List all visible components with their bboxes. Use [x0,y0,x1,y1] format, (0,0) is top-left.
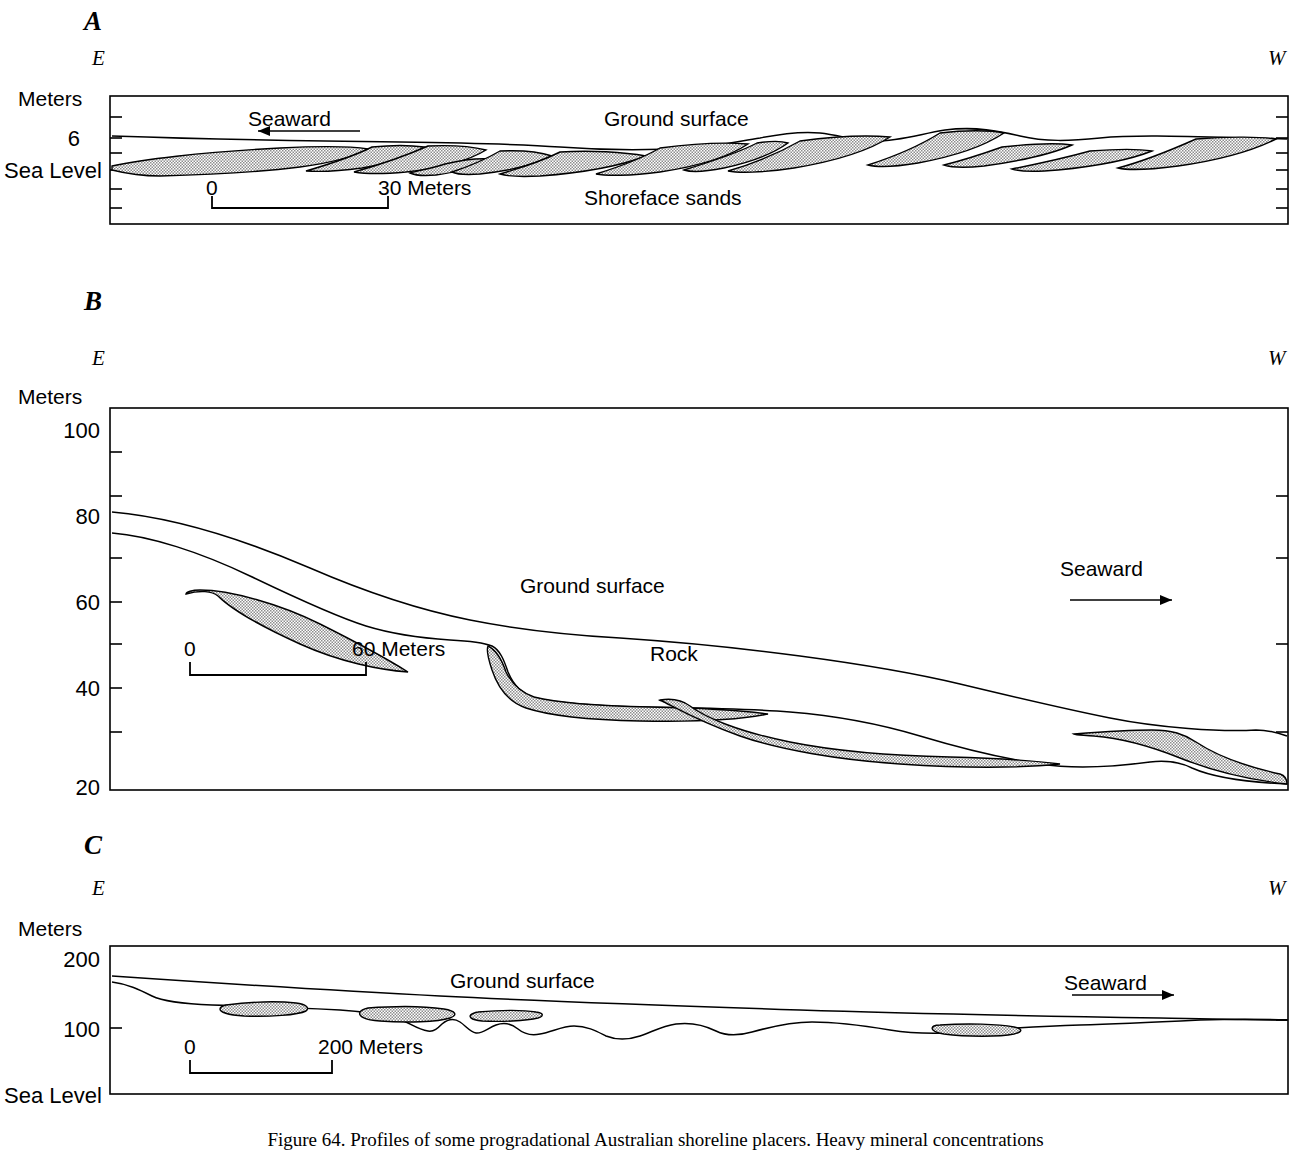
panel-c-scale-start: 0 [184,1036,196,1057]
panel-a-ground-surface-label: Ground surface [604,108,749,129]
panel-a-unit-label: Shoreface sands [584,187,742,208]
panel-a-right-ticks [1276,117,1288,208]
panel-a-scale-bar [212,196,388,208]
panel-b-ore-bodies [186,590,1287,784]
panel-b-unit-label: Rock [650,643,698,664]
panel-a-scale-start: 0 [206,177,218,198]
panel-b-ground-surface-label: Ground surface [520,575,665,596]
panel-c-seaward-label: Seaward [1064,972,1147,993]
panel-b-scale-start: 0 [184,638,196,659]
panel-b-seaward-label: Seaward [1060,558,1143,579]
panel-b: B E W Meters 100 80 60 40 20 [0,280,1311,820]
panel-b-scale-bar [190,662,366,675]
panel-b-seaward-arrow [1070,595,1172,605]
panel-b-scale-end: 60 Meters [352,638,445,659]
panel-a-left-ticks [110,117,122,208]
panel-c: C E W Meters 200 100 Sea Level [0,820,1311,1120]
panel-c-scale-end: 200 Meters [318,1036,423,1057]
panel-a-seaward-label: Seaward [248,108,331,129]
panel-a-scale-end: 30 Meters [378,177,471,198]
panel-a: A E W Meters 6 Sea Level [0,0,1311,260]
figure-caption: Figure 64. Profiles of some progradation… [0,1128,1311,1152]
panel-c-scale-bar [190,1060,332,1073]
panel-c-ground-surface-label: Ground surface [450,970,595,991]
panel-b-left-ticks [110,452,122,732]
panel-c-frame [110,946,1288,1094]
panel-b-right-ticks [1276,496,1288,732]
